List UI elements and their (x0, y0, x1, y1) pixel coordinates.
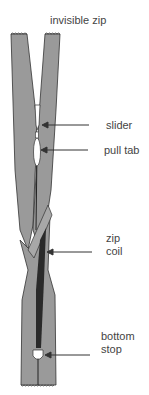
label-slider: slider (106, 119, 132, 131)
arrow-zip-coil (47, 249, 92, 255)
label-bottom-stop-line2: stop (101, 343, 122, 355)
bottom-stop-shape (33, 350, 43, 359)
diagram-title: invisible zip (50, 14, 106, 26)
label-zip-coil-line1: zip (106, 232, 120, 244)
pull-tab-shape (34, 138, 41, 166)
slider-connector (36, 132, 39, 138)
label-zip-coil-line2: coil (106, 245, 123, 257)
invisible-zip-diagram: invisible zip slider pull tab zip coil b… (0, 0, 149, 395)
label-bottom-stop-line1: bottom (101, 330, 135, 342)
label-pull-tab: pull tab (104, 144, 139, 156)
left-tape-upper (11, 34, 37, 250)
